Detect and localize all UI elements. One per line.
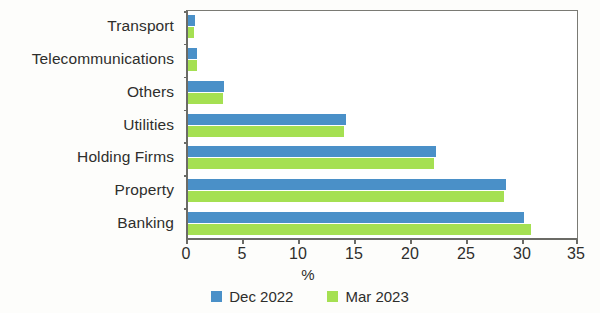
bar-group-others [188,77,577,110]
x-axis-tick-label-15: 15 [345,245,363,263]
x-axis-tick [466,240,468,244]
y-axis-label-banking: Banking [0,207,174,240]
x-axis-tick [354,240,356,244]
bar-mar2023-banking [188,224,531,235]
x-axis-title: % [0,266,600,283]
y-axis-label-holding-firms: Holding Firms [0,141,174,174]
x-axis-tick-label-30: 30 [513,245,531,263]
bar-dec2022-transport [188,15,195,26]
y-axis-tick [184,175,188,177]
bar-chart: Transport Telecommunications Others Util… [0,0,600,313]
bar-mar2023-others [188,93,223,104]
x-axis-tick-label-35: 35 [567,245,585,263]
y-axis-label-telecommunications: Telecommunications [0,43,174,76]
legend-swatch-icon-dec-2022 [211,291,222,302]
bar-group-telecommunications [188,44,577,77]
x-axis-tick-label-10: 10 [289,245,307,263]
x-axis-tick [242,240,244,244]
bar-group-banking [188,208,577,241]
y-axis-tick [184,44,188,46]
bar-mar2023-transport [188,27,194,38]
x-axis-tick-label-25: 25 [457,245,475,263]
bar-dec2022-banking [188,212,524,223]
bar-mar2023-holding-firms [188,158,434,169]
legend-label-mar-2023: Mar 2023 [345,288,408,305]
y-axis-label-property: Property [0,174,174,207]
plot-area [186,10,578,240]
bar-group-property [188,175,577,208]
y-axis-category-labels: Transport Telecommunications Others Util… [0,10,180,240]
y-axis-tick [184,77,188,79]
bar-dec2022-property [188,179,506,190]
x-axis-tick [298,240,300,244]
y-axis-tick [184,110,188,112]
bar-mar2023-utilities [188,126,344,137]
x-axis-tick [576,240,578,244]
y-axis-tick [184,208,188,210]
bar-group-holding-firms [188,142,577,175]
bar-group-transport [188,11,577,44]
bar-group-utilities [188,110,577,143]
legend-item-dec-2022: Dec 2022 [211,288,293,305]
bar-mar2023-property [188,191,504,202]
bar-dec2022-others [188,81,224,92]
y-axis-label-others: Others [0,76,174,109]
y-axis-label-utilities: Utilities [0,109,174,142]
legend-label-dec-2022: Dec 2022 [229,288,293,305]
x-axis-tick [186,240,188,244]
x-axis-tick-label-5: 5 [238,245,247,263]
x-axis-tick [410,240,412,244]
x-axis-tick-label-0: 0 [182,245,191,263]
bar-dec2022-utilities [188,114,346,125]
bar-mar2023-telecommunications [188,60,197,71]
chart-legend: Dec 2022 Mar 2023 [0,288,600,305]
x-axis-tick [522,240,524,244]
y-axis-label-transport: Transport [0,10,174,43]
legend-item-mar-2023: Mar 2023 [327,288,408,305]
y-axis-tick [184,142,188,144]
y-axis-tick [184,11,188,13]
legend-swatch-icon-mar-2023 [327,291,338,302]
bar-dec2022-telecommunications [188,48,197,59]
bar-dec2022-holding-firms [188,146,436,157]
x-axis-tick-label-20: 20 [401,245,419,263]
